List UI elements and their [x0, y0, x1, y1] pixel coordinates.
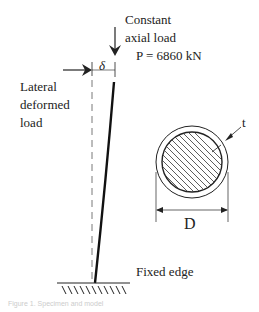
lateral-load-label-line1: Lateral	[20, 79, 57, 94]
axial-load-label-line1: Constant	[125, 12, 171, 27]
lateral-load-label-line3: load	[20, 115, 42, 130]
displacement-symbol: δ	[99, 58, 105, 73]
axial-load-arrow	[109, 27, 121, 56]
diameter-symbol: D	[184, 215, 196, 233]
fixed-edge-label: Fixed edge	[136, 264, 193, 279]
column-diagram	[0, 0, 259, 312]
fixed-support	[57, 283, 130, 294]
axial-load-value: P = 6860 kN	[136, 48, 202, 63]
thickness-symbol: t	[242, 115, 246, 130]
figure-caption: Figure 1. Specimen and model	[8, 300, 103, 307]
cross-section	[86, 120, 259, 222]
lateral-load-label-line2: deformed	[20, 97, 70, 112]
deformed-column	[95, 82, 114, 283]
axial-load-label-line2: axial load	[125, 30, 176, 45]
lateral-load-arrow	[63, 64, 92, 76]
